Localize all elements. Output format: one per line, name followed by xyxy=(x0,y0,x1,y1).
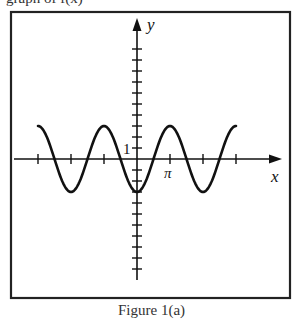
x-axis-arrow-icon xyxy=(269,155,282,164)
x-tick-label-pi: π xyxy=(164,165,172,181)
x-axis-label: x xyxy=(270,167,279,186)
caption-bottom-fragment: Figure 1(a) xyxy=(118,302,185,319)
y-tick-label-1: 1 xyxy=(123,141,131,157)
y-axis-label: y xyxy=(145,15,155,34)
axes xyxy=(14,18,282,280)
y-axis-arrow-icon xyxy=(133,18,142,31)
